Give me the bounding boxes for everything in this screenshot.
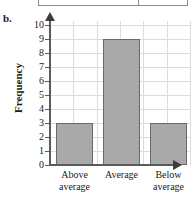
y-tick-label: 3 bbox=[26, 118, 44, 128]
bar-3 bbox=[150, 123, 187, 165]
y-tick-mark bbox=[45, 109, 50, 110]
table-remnant bbox=[38, 0, 188, 6]
y-axis-line bbox=[49, 19, 51, 166]
y-tick-label: 6 bbox=[26, 76, 44, 86]
y-tick-label: 5 bbox=[26, 90, 44, 100]
table-column-divider bbox=[138, 0, 139, 5]
y-axis-title: Frequency bbox=[12, 48, 24, 128]
y-tick-mark bbox=[45, 25, 50, 26]
bar-2 bbox=[103, 39, 140, 165]
plot-area bbox=[50, 21, 190, 165]
x-label-line: Above bbox=[51, 169, 99, 181]
gridline-vertical bbox=[190, 21, 191, 165]
x-label-line: Average bbox=[98, 169, 146, 181]
x-label-line: average bbox=[145, 181, 193, 193]
y-tick-mark bbox=[45, 123, 50, 124]
y-tick-label: 4 bbox=[26, 104, 44, 114]
x-axis-line bbox=[49, 164, 174, 166]
y-tick-mark bbox=[45, 137, 50, 138]
x-label-line: average bbox=[51, 181, 99, 193]
gridline-vertical bbox=[97, 21, 98, 165]
y-tick-label: 9 bbox=[26, 34, 44, 44]
y-tick-mark bbox=[45, 95, 50, 96]
y-tick-mark bbox=[45, 67, 50, 68]
x-axis-label-3: Belowaverage bbox=[145, 169, 193, 193]
y-tick-label: 0 bbox=[26, 160, 44, 170]
y-tick-label: 2 bbox=[26, 132, 44, 142]
y-axis-arrow-icon bbox=[45, 12, 55, 21]
x-axis-label-1: Aboveaverage bbox=[51, 169, 99, 193]
y-tick-label: 8 bbox=[26, 48, 44, 58]
x-label-line: Below bbox=[145, 169, 193, 181]
y-tick-mark bbox=[45, 151, 50, 152]
x-axis-label-2: Average bbox=[98, 169, 146, 181]
y-tick-mark bbox=[45, 165, 50, 166]
y-tick-mark bbox=[45, 81, 50, 82]
y-tick-label: 1 bbox=[26, 146, 44, 156]
gridline-vertical bbox=[143, 21, 144, 165]
y-tick-label: 7 bbox=[26, 62, 44, 72]
bar-1 bbox=[56, 123, 93, 165]
y-tick-mark bbox=[45, 39, 50, 40]
y-tick-label: 10 bbox=[26, 20, 44, 30]
y-tick-mark bbox=[45, 53, 50, 54]
